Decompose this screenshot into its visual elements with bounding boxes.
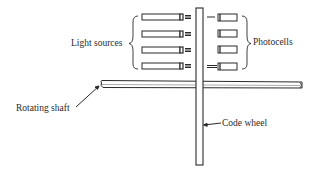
light-source-4 [142, 63, 191, 69]
photocell-3 [218, 46, 237, 53]
code-wheel-leader [204, 123, 222, 126]
light-source-3 [142, 47, 191, 53]
light-source-2 [142, 31, 191, 37]
photocell-2 [218, 30, 237, 37]
rotating-shaft-leader [76, 86, 99, 107]
code-wheel-label: Code wheel [222, 119, 267, 129]
encoder-diagram [0, 0, 321, 170]
photocell-4 [207, 63, 237, 70]
photocells-brace [242, 16, 251, 69]
rotating-shaft-label: Rotating shaft [16, 104, 70, 114]
light-sources-brace [129, 16, 138, 69]
code-wheel [196, 8, 203, 165]
light-sources [142, 14, 191, 69]
light-source-1 [142, 14, 191, 20]
photocell-1 [207, 14, 237, 21]
light-sources-label: Light sources [71, 39, 122, 49]
photocells-label: Photocells [253, 38, 293, 48]
photocells [207, 14, 237, 70]
